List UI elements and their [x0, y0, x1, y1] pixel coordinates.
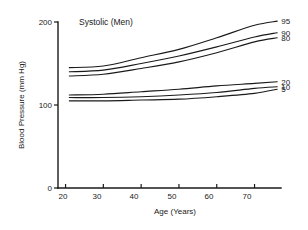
chart-title: Systolic (Men) — [79, 17, 133, 27]
chart-page: 200 100 0 20 30 40 50 60 70 Age (Years) … — [0, 0, 308, 230]
systolic-men-line-chart: 200 100 0 20 30 40 50 60 70 Age (Years) … — [0, 0, 308, 230]
y-tick-label-100: 100 — [39, 101, 53, 110]
x-axis-title: Age (Years) — [154, 207, 196, 216]
x-tick-label-60: 60 — [205, 192, 214, 201]
x-tick-label-70: 70 — [243, 192, 252, 201]
y-tick-label-200: 200 — [39, 18, 53, 27]
series-label-95: 95 — [281, 17, 290, 26]
y-axis-title: Blood Pressure (mm Hg) — [17, 61, 26, 149]
x-tick-label-50: 50 — [168, 192, 177, 201]
series-label-5: 5 — [281, 85, 286, 94]
series-curves-group — [69, 21, 277, 101]
series-end-labels-group: 95908020105 — [281, 17, 290, 94]
series-curve-20 — [69, 82, 277, 95]
x-tick-label-30: 30 — [93, 192, 102, 201]
series-curve-10 — [69, 87, 277, 98]
series-label-80: 80 — [281, 34, 290, 43]
x-tick-label-40: 40 — [130, 192, 139, 201]
x-tick-label-20: 20 — [59, 192, 68, 201]
y-tick-label-0: 0 — [48, 184, 53, 193]
